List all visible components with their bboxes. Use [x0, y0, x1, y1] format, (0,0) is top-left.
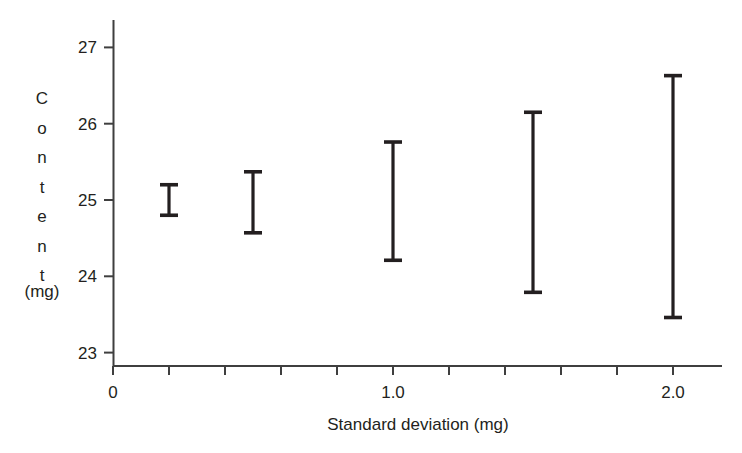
- y-axis-units-label: (mg): [25, 282, 60, 301]
- y-axis-title-letter: C: [36, 89, 48, 108]
- x-tick-label: 0: [108, 383, 117, 402]
- y-tick-label: 23: [78, 344, 97, 363]
- y-tick-label: 25: [78, 191, 97, 210]
- x-tick-label: 1.0: [381, 383, 405, 402]
- y-tick-label: 24: [78, 267, 97, 286]
- y-tick-label: 27: [78, 38, 97, 57]
- y-tick-label: 26: [78, 115, 97, 134]
- y-axis-title-letter: e: [37, 207, 46, 226]
- y-axis-title-letter: n: [37, 148, 46, 167]
- x-tick-label: 2.0: [661, 383, 685, 402]
- errorbar-chart: 2324252627 01.02.0 Content (mg) Standard…: [0, 0, 742, 453]
- y-axis-title-letter: t: [40, 178, 45, 197]
- y-axis-title-letter: n: [37, 237, 46, 256]
- x-axis-title-label: Standard deviation (mg): [327, 415, 508, 434]
- chart-figure: 2324252627 01.02.0 Content (mg) Standard…: [0, 0, 742, 453]
- y-axis-title-letter: o: [37, 119, 46, 138]
